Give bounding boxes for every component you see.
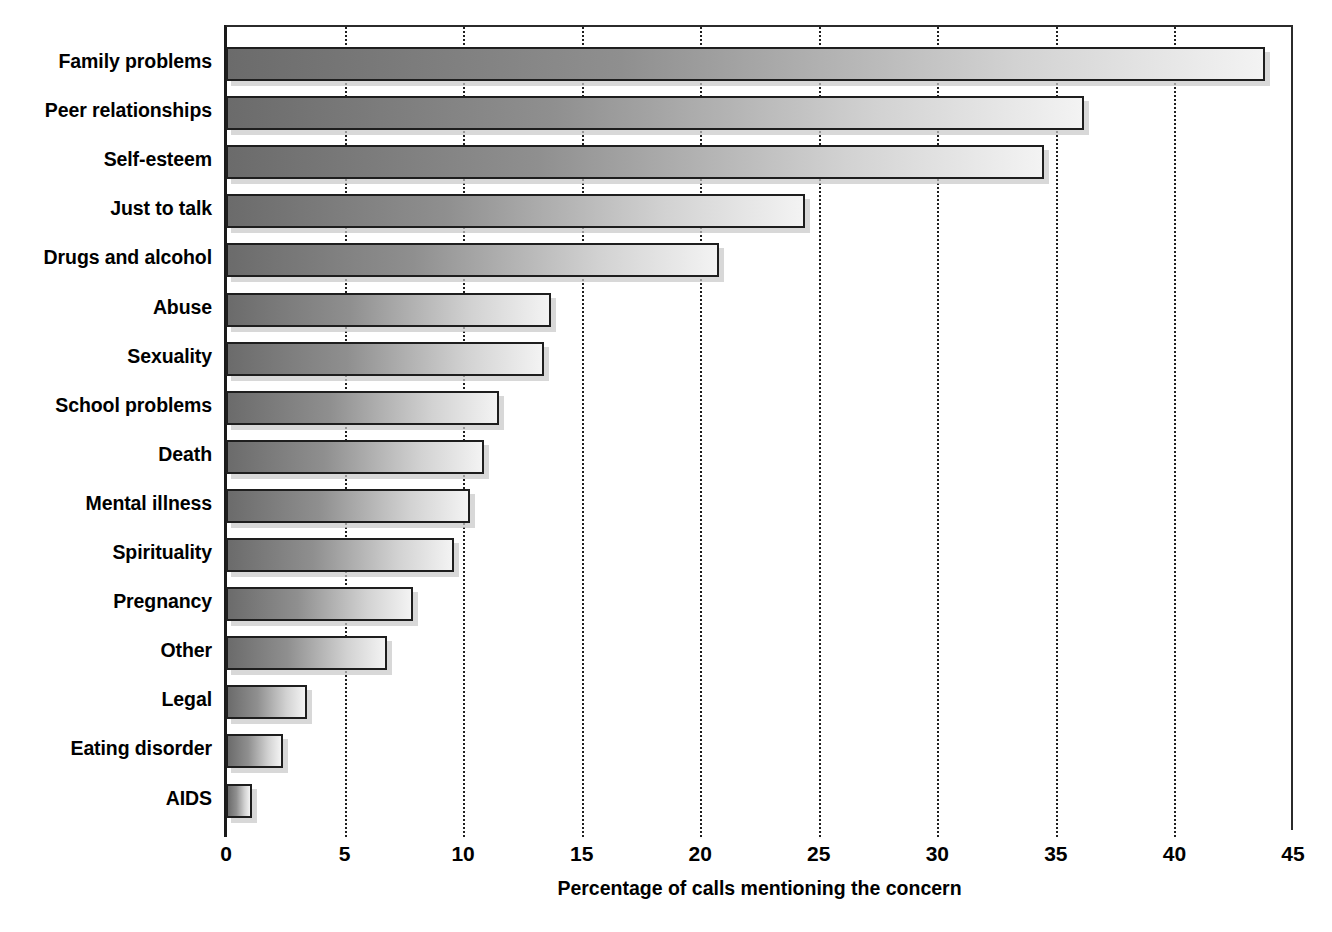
x-tick-15: 15 [570,843,593,864]
bar-body [226,293,551,327]
category-label: Family problems [0,52,212,72]
bar [226,685,307,719]
category-label: Mental illness [0,494,212,514]
category-label: Legal [0,690,212,710]
bar-body [226,96,1084,130]
x-tick-30: 30 [926,843,949,864]
category-label: Other [0,641,212,661]
category-label: Peer relationships [0,101,212,121]
plot-area [226,25,1293,830]
x-tick-45: 45 [1281,843,1304,864]
bar [226,734,283,768]
bar-body [226,734,283,768]
bar [226,489,470,523]
bar [226,194,805,228]
bar [226,784,252,818]
x-tick-35: 35 [1044,843,1067,864]
category-label: Sexuality [0,347,212,367]
bar-body [226,194,805,228]
x-axis-title: Percentage of calls mentioning the conce… [226,879,1293,899]
bar [226,587,413,621]
x-tick-5: 5 [339,843,351,864]
category-label: Abuse [0,298,212,318]
bar [226,440,484,474]
category-label: Spirituality [0,543,212,563]
bar-body [226,391,499,425]
bar [226,96,1084,130]
bar-body [226,243,719,277]
bar-body [226,587,413,621]
bar-body [226,440,484,474]
x-tick-40: 40 [1163,843,1186,864]
gridline-35 [1056,27,1058,837]
bar-chart: Family problemsPeer relationshipsSelf-es… [0,0,1332,932]
x-tick-25: 25 [807,843,830,864]
bar [226,293,551,327]
bar-body [226,145,1044,179]
category-label: Death [0,445,212,465]
bar [226,636,387,670]
bar-body [226,47,1265,81]
bar-body [226,342,544,376]
bar-body [226,538,454,572]
bar [226,538,454,572]
x-tick-10: 10 [451,843,474,864]
bar [226,342,544,376]
category-label: School problems [0,396,212,416]
bar-body [226,489,470,523]
bar-body [226,636,387,670]
category-label: Drugs and alcohol [0,248,212,268]
bar [226,47,1265,81]
bar [226,391,499,425]
category-label: Pregnancy [0,592,212,612]
category-label: Eating disorder [0,739,212,759]
gridline-40 [1174,27,1176,837]
bar-body [226,784,252,818]
category-axis-labels: Family problemsPeer relationshipsSelf-es… [0,25,212,830]
x-tick-0: 0 [220,843,232,864]
category-label: Just to talk [0,199,212,219]
x-tick-20: 20 [689,843,712,864]
category-label: Self-esteem [0,150,212,170]
bar-body [226,685,307,719]
bar [226,145,1044,179]
category-label: AIDS [0,789,212,809]
bar [226,243,719,277]
